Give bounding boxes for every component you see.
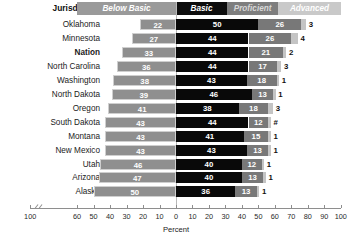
segment-proficient: 17	[249, 61, 277, 72]
segment-advanced	[301, 19, 306, 30]
legend-band: Below BasicBasicProficientAdvanced	[77, 2, 350, 15]
bar-row: 474013	[99, 172, 266, 183]
segment-advanced-value: 3	[276, 103, 280, 114]
x-axis-tick	[30, 205, 31, 208]
x-axis-tick	[341, 205, 342, 208]
x-axis-tick	[275, 205, 276, 208]
bar-row: 384318	[113, 75, 279, 86]
bar-row: 413818	[108, 103, 273, 114]
segment-basic: 44	[176, 61, 249, 72]
segment-proficient: 13	[242, 172, 263, 183]
x-axis-tick	[291, 205, 292, 208]
x-axis-tick	[176, 205, 177, 208]
segment-below-basic: 36	[117, 61, 176, 72]
x-axis-tick	[77, 205, 78, 208]
segment-advanced-value: 3	[309, 19, 313, 30]
bar-row: 274426	[132, 33, 298, 44]
x-axis-tick	[209, 205, 210, 208]
segment-proficient: 13	[247, 145, 268, 156]
segment-advanced	[277, 61, 282, 72]
segment-advanced-value: 1	[273, 145, 277, 156]
x-axis-tick	[192, 205, 193, 208]
segment-advanced-value: 1	[268, 172, 272, 183]
segment-basic: 50	[176, 19, 258, 30]
x-axis-tick-label: 100	[20, 213, 40, 220]
segment-advanced-value: 2	[289, 47, 293, 58]
segment-proficient: 15	[244, 131, 269, 142]
segment-basic: 38	[176, 103, 239, 114]
segment-advanced-value: #	[273, 117, 277, 128]
segment-basic: 40	[176, 159, 242, 170]
legend-item-advanced[interactable]: Advanced	[278, 2, 341, 15]
bar-row: 394613	[112, 89, 276, 100]
segment-below-basic: 27	[132, 33, 176, 44]
segment-advanced	[268, 131, 271, 142]
segment-advanced	[273, 89, 276, 100]
segment-advanced-value: 1	[262, 186, 266, 197]
segment-proficient: 18	[239, 103, 269, 114]
bar-row: 434115	[105, 131, 271, 142]
segment-proficient: 13	[235, 186, 256, 197]
x-axis-tick	[225, 205, 226, 208]
segment-basic: 43	[176, 145, 247, 156]
segment-advanced	[257, 186, 260, 197]
x-axis-tick	[110, 205, 111, 208]
segment-below-basic: 33	[122, 47, 176, 58]
segment-advanced-value: 4	[300, 33, 304, 44]
x-axis-tick	[160, 205, 161, 208]
segment-basic: 36	[176, 186, 235, 197]
segment-proficient: 12	[249, 117, 269, 128]
segment-proficient: 26	[249, 33, 292, 44]
segment-basic: 44	[176, 33, 249, 44]
x-axis-tick	[127, 205, 128, 208]
legend-item-proficient[interactable]: Proficient	[227, 2, 278, 15]
segment-advanced-value: 3	[284, 61, 288, 72]
segment-advanced-value: 1	[278, 89, 282, 100]
bar-row: 434412	[105, 117, 271, 128]
segment-basic: 44	[176, 47, 249, 58]
legend-item-below_basic[interactable]: Below Basic	[77, 2, 176, 15]
segment-below-basic: 22	[140, 19, 176, 30]
segment-below-basic: 47	[99, 172, 176, 183]
segment-below-basic: 50	[94, 186, 176, 197]
segment-proficient: 21	[249, 47, 284, 58]
segment-below-basic: 43	[105, 145, 176, 156]
segment-advanced-value: 1	[267, 159, 271, 170]
segment-advanced	[268, 103, 273, 114]
bar-row: 464012	[100, 159, 264, 170]
x-axis-tick-label: 100	[331, 213, 350, 220]
axis-break-marker	[34, 204, 46, 211]
segment-basic: 41	[176, 131, 244, 142]
x-axis-title: Percent	[136, 226, 216, 234]
achievement-level-chart: Jurisdiction OklahomaMinnesotaNationNort…	[0, 0, 350, 241]
x-axis-tick	[143, 205, 144, 208]
x-axis-tick	[324, 205, 325, 208]
x-axis-line	[30, 208, 341, 209]
segment-advanced-value: 1	[282, 75, 286, 86]
segment-below-basic: 43	[105, 117, 176, 128]
legend-item-basic[interactable]: Basic	[176, 2, 227, 15]
bar-row: 503613	[94, 186, 260, 197]
segment-advanced	[291, 33, 298, 44]
segment-advanced-value: 1	[273, 131, 277, 142]
segment-advanced	[268, 145, 271, 156]
bar-row: 434313	[105, 145, 271, 156]
segment-basic: 46	[176, 89, 252, 100]
segment-proficient: 13	[252, 89, 273, 100]
segment-advanced	[263, 172, 266, 183]
bar-row: 225026	[140, 19, 306, 30]
x-axis-tick	[94, 205, 95, 208]
segment-advanced	[283, 47, 286, 58]
x-axis-tick	[308, 205, 309, 208]
segment-below-basic: 38	[113, 75, 176, 86]
bar-row: 364417	[117, 61, 282, 72]
segment-advanced	[262, 159, 265, 170]
bar-row: 334421	[122, 47, 287, 58]
x-axis-tick	[242, 205, 243, 208]
segment-advanced	[268, 117, 271, 128]
segment-below-basic: 43	[105, 131, 176, 142]
segment-basic: 40	[176, 172, 242, 183]
segment-proficient: 12	[242, 159, 262, 170]
plot-area: Below BasicBasicProficientAdvanced225026…	[0, 0, 350, 241]
x-axis-tick	[258, 205, 259, 208]
